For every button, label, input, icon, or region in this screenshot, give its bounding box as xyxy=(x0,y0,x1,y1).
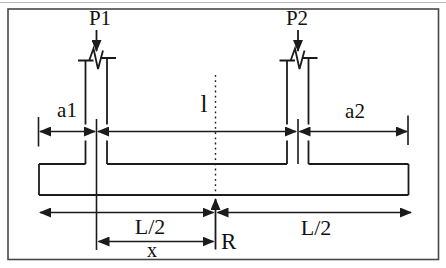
dim-half-length-right-label: L/2 xyxy=(301,215,332,240)
diagram-svg: P1 P2 a1 a2 l L/2 L/2 x R xyxy=(0,0,446,268)
p2-load-label: P2 xyxy=(286,6,308,30)
dim-a2-label: a2 xyxy=(345,99,365,123)
footing-outline xyxy=(39,164,409,195)
figure-border xyxy=(8,9,439,260)
diagram-linework xyxy=(39,30,412,250)
column-break-zigzag-icon xyxy=(89,49,103,70)
dim-half-length-left-label: L/2 xyxy=(135,214,166,239)
column-break-caps-icon xyxy=(78,58,116,61)
beam-footing-diagram: P1 P2 a1 a2 l L/2 L/2 x R xyxy=(0,0,446,268)
reaction-label: R xyxy=(221,229,237,254)
p1-load-label: P1 xyxy=(89,6,111,30)
diagram-labels: P1 P2 a1 a2 l L/2 L/2 x R xyxy=(57,6,365,261)
dim-x-label: x xyxy=(147,239,157,261)
dim-span-label: l xyxy=(201,90,208,117)
dim-a1-label: a1 xyxy=(57,98,77,122)
